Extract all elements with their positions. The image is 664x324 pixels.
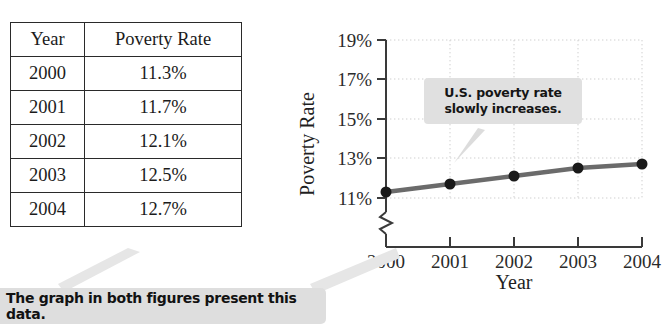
cell-rate: 11.3% [85, 57, 242, 91]
caption-text: The graph in both figures present this d… [0, 290, 326, 322]
y-axis-title: Poverty Rate [296, 92, 319, 196]
cell-year: 2002 [11, 125, 85, 159]
callout-tail [452, 128, 486, 164]
y-tick-label: 11% [338, 188, 372, 209]
cell-rate: 12.1% [85, 125, 242, 159]
y-tick-label: 13% [337, 148, 372, 169]
cell-year: 2001 [11, 91, 85, 125]
table-header-poverty-rate: Poverty Rate [85, 23, 242, 57]
cell-rate: 11.7% [85, 91, 242, 125]
x-tick-label: 2002 [495, 251, 533, 272]
data-point [381, 187, 392, 198]
x-tick-label: 2004 [623, 251, 662, 272]
y-axis-ticks [377, 40, 386, 198]
table: Year Poverty Rate 2000 11.3% 2001 11.7% … [10, 22, 242, 227]
x-tick-label: 2003 [559, 251, 597, 272]
cell-year: 2004 [11, 193, 85, 227]
x-axis-title: Year [496, 271, 533, 290]
caption-bubble: The graph in both figures present this d… [0, 288, 326, 324]
y-tick-label: 17% [337, 69, 372, 90]
x-tick-label: 2001 [431, 251, 469, 272]
poverty-rate-table: Year Poverty Rate 2000 11.3% 2001 11.7% … [10, 22, 242, 227]
cell-rate: 12.5% [85, 159, 242, 193]
chart-annotation-callout: U.S. poverty rate slowly increases. [424, 78, 582, 124]
figure-page: Year Poverty Rate 2000 11.3% 2001 11.7% … [0, 0, 664, 324]
data-point [637, 159, 648, 170]
x-axis-ticks [386, 237, 642, 247]
table-row: 2003 12.5% [11, 159, 242, 193]
table-row: 2002 12.1% [11, 125, 242, 159]
table-row: 2001 11.7% [11, 91, 242, 125]
cell-year: 2003 [11, 159, 85, 193]
data-point [509, 171, 520, 182]
table-row: 2000 11.3% [11, 57, 242, 91]
table-header-row: Year Poverty Rate [11, 23, 242, 57]
y-tick-label: 15% [337, 109, 372, 130]
callout-text: U.S. poverty rate slowly increases. [432, 85, 574, 116]
cell-year: 2000 [11, 57, 85, 91]
table-header-year: Year [11, 23, 85, 57]
axis-break-icon [380, 212, 392, 234]
table-row: 2004 12.7% [11, 193, 242, 227]
data-point [445, 179, 456, 190]
cell-rate: 12.7% [85, 193, 242, 227]
data-point [573, 163, 584, 174]
y-tick-label: 19% [337, 30, 372, 51]
